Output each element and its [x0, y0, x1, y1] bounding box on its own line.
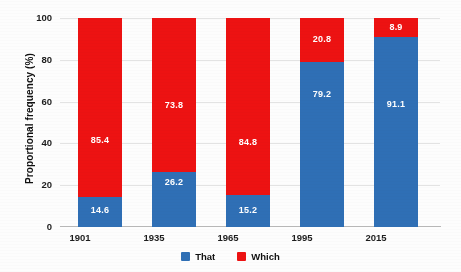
bar-label-which-1995: 20.8 [313, 35, 331, 44]
bar-label-that-1901: 14.6 [91, 206, 109, 215]
bar-segment-that-1995[interactable]: 79.2 [300, 62, 344, 228]
legend-swatch-which-icon [237, 252, 246, 261]
legend-label-which: Which [251, 251, 280, 262]
bar-segment-which-1965[interactable]: 84.8 [226, 18, 270, 195]
bar-label-which-2015: 8.9 [389, 23, 402, 32]
bar-group-1995: 20.8 79.2 [300, 18, 344, 227]
x-tick-label-1995: 1995 [267, 232, 337, 243]
x-tick-label-1935: 1935 [119, 232, 189, 243]
y-tick-label-40: 40 [18, 137, 52, 148]
bar-label-that-1965: 15.2 [239, 206, 257, 215]
y-tick-label-0: 0 [18, 221, 52, 232]
bar-segment-that-1901[interactable]: 14.6 [78, 197, 122, 228]
legend-label-that: That [195, 251, 215, 262]
bar-segment-which-1995[interactable]: 20.8 [300, 18, 344, 62]
y-tick-label-80: 80 [18, 54, 52, 65]
y-tick-label-20: 20 [18, 179, 52, 190]
bar-segment-that-1965[interactable]: 15.2 [226, 195, 270, 227]
bar-label-that-1995: 79.2 [313, 90, 331, 99]
bar-segment-which-1935[interactable]: 73.8 [152, 18, 196, 172]
bar-group-1901: 85.4 14.6 [78, 18, 122, 227]
bar-segment-which-1901[interactable]: 85.4 [78, 18, 122, 197]
bar-segment-that-2015[interactable]: 91.1 [374, 37, 418, 227]
bar-label-that-2015: 91.1 [387, 100, 405, 109]
y-tick-label-100: 100 [18, 12, 52, 23]
bar-group-1965: 84.8 15.2 [226, 18, 270, 227]
stacked-bar-chart: Proportional frequency (%) 100 80 60 40 … [0, 0, 461, 272]
x-tick-label-1965: 1965 [193, 232, 263, 243]
y-tick-label-60: 60 [18, 96, 52, 107]
bar-label-that-1935: 26.2 [165, 178, 183, 187]
x-tick-label-1901: 1901 [45, 232, 115, 243]
bar-label-which-1935: 73.8 [165, 101, 183, 110]
plot-area: 85.4 14.6 73.8 26.2 84.8 15.2 [60, 18, 440, 227]
legend-item-which[interactable]: Which [237, 251, 280, 262]
bar-label-which-1901: 85.4 [91, 136, 109, 145]
bar-segment-that-1935[interactable]: 26.2 [152, 172, 196, 227]
bar-segment-which-2015[interactable]: 8.9 [374, 18, 418, 37]
bar-label-which-1965: 84.8 [239, 138, 257, 147]
legend-swatch-that-icon [181, 252, 190, 261]
bar-group-1935: 73.8 26.2 [152, 18, 196, 227]
x-tick-label-2015: 2015 [341, 232, 411, 243]
legend-item-that[interactable]: That [181, 251, 215, 262]
y-axis-title: Proportional frequency (%) [24, 14, 35, 224]
chart-legend: That Which [0, 251, 461, 262]
bar-group-2015: 8.9 91.1 [374, 18, 418, 227]
